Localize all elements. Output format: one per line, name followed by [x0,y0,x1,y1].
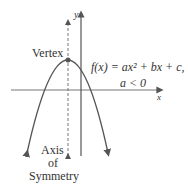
axis-label-line3: Symmetry [29,169,79,184]
y-axis-label: y [74,9,78,20]
condition-label: a < 0 [120,76,146,91]
x-axis-label: x [157,92,161,102]
function-label: f(x) = ax² + bx + c, [91,60,185,75]
vertex-point [66,58,71,63]
vertex-label: Vertex [32,46,63,61]
